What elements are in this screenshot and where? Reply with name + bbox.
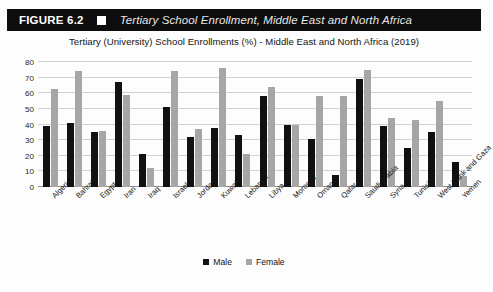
bar-group [86, 62, 110, 187]
legend-swatch-male [203, 259, 209, 265]
figure-title: Tertiary School Enrollment, Middle East … [120, 14, 412, 26]
x-label-cell: Bahrain [62, 189, 86, 259]
x-label-cell: Jordan [183, 189, 207, 259]
bar-group [62, 62, 86, 187]
x-label-cell: Lebanon [231, 189, 255, 259]
bar-group [351, 62, 375, 187]
bar-female [316, 96, 323, 187]
bar-male [404, 148, 411, 187]
bar-male [139, 154, 146, 187]
legend-swatch-female [246, 259, 252, 265]
bar-female [195, 129, 202, 187]
x-label-cell: Oman [303, 189, 327, 259]
bar-female [219, 68, 226, 187]
x-label-cell: Tunisia [400, 189, 424, 259]
y-tick-label: 70 [25, 73, 34, 82]
bar-group [424, 62, 448, 187]
bar-female [75, 71, 82, 187]
bar-female [292, 125, 299, 188]
bar-male [43, 126, 50, 187]
bar-female [364, 70, 371, 187]
bar-group [159, 62, 183, 187]
x-label-cell: Syria [376, 189, 400, 259]
x-label-cell: Morocco [279, 189, 303, 259]
figure-caption-bar: FIGURE 6.2 Tertiary School Enrollment, M… [7, 9, 481, 31]
bar-male [163, 107, 170, 187]
bar-female [147, 168, 154, 187]
bar-group [183, 62, 207, 187]
bar-male [115, 82, 122, 187]
bar-female [340, 96, 347, 187]
bar-group [327, 62, 351, 187]
bar-female [123, 95, 130, 187]
bar-female [171, 71, 178, 187]
x-axis-labels: AlgeriaBahrainEgyptIranIraqIsraelJordanK… [38, 189, 472, 259]
y-tick-label: 30 [25, 136, 34, 145]
y-tick-label: 20 [25, 151, 34, 160]
x-label-cell: West Bank and Gaza [424, 189, 448, 259]
x-label-cell: Iran [110, 189, 134, 259]
white-square-icon [97, 16, 106, 25]
y-tick-label: 0 [30, 183, 34, 192]
x-label-cell: Kuwait [207, 189, 231, 259]
x-label-cell: Libya [255, 189, 279, 259]
bar-male [356, 79, 363, 187]
bar-female [99, 131, 106, 187]
bar-male [284, 125, 291, 188]
bar-groups [38, 62, 472, 187]
y-tick-label: 50 [25, 104, 34, 113]
bar-chart: 01020304050607080 AlgeriaBahrainEgyptIra… [8, 56, 480, 288]
legend-label-female: Female [256, 257, 285, 267]
chart-legend: Male Female [8, 257, 480, 267]
x-label-cell: Saudi Arabia [351, 189, 375, 259]
x-label-cell: Iraq [134, 189, 158, 259]
figure-number: FIGURE 6.2 [19, 14, 84, 26]
legend-label-male: Male [213, 257, 232, 267]
x-label-cell: Algeria [38, 189, 62, 259]
bar-group [207, 62, 231, 187]
x-label-cell: Israel [159, 189, 183, 259]
chart-title: Tertiary (University) School Enrollments… [0, 36, 488, 47]
bar-male [187, 137, 194, 187]
bar-group [255, 62, 279, 187]
bar-female [268, 87, 275, 187]
bar-group [303, 62, 327, 187]
bar-female [243, 154, 250, 187]
legend-item-female: Female [246, 257, 285, 267]
bar-group [279, 62, 303, 187]
bar-group [400, 62, 424, 187]
y-tick-label: 40 [25, 120, 34, 129]
x-label-cell: Egypt [86, 189, 110, 259]
bar-female [412, 120, 419, 187]
x-label-cell: Yemen [448, 189, 472, 259]
x-label-cell: Qatar [327, 189, 351, 259]
y-tick-label: 60 [25, 89, 34, 98]
bar-group [231, 62, 255, 187]
legend-item-male: Male [203, 257, 232, 267]
bar-group [134, 62, 158, 187]
bar-female [436, 101, 443, 187]
bar-group [110, 62, 134, 187]
y-tick-label: 80 [25, 58, 34, 67]
bar-female [51, 89, 58, 187]
bar-group [38, 62, 62, 187]
plot-area: 01020304050607080 [38, 62, 472, 187]
y-tick-label: 10 [25, 167, 34, 176]
